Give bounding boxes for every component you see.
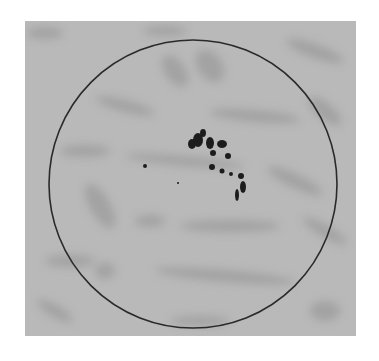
dark-spot — [220, 169, 225, 174]
dark-spot — [210, 150, 216, 156]
dark-spot — [143, 164, 147, 168]
dark-spot — [206, 137, 214, 149]
photograph — [25, 21, 356, 336]
background-handwriting-texture — [27, 26, 350, 326]
dark-spot — [235, 189, 239, 201]
dark-spot — [240, 181, 246, 193]
dark-spot — [188, 139, 196, 149]
dark-spot — [209, 164, 215, 170]
dark-spot — [225, 153, 231, 159]
dark-spot — [177, 182, 179, 184]
dark-spot — [238, 173, 244, 179]
dark-spot — [229, 172, 233, 176]
photo-canvas — [25, 21, 356, 336]
dark-spot — [200, 129, 206, 137]
dark-spot — [217, 140, 227, 148]
